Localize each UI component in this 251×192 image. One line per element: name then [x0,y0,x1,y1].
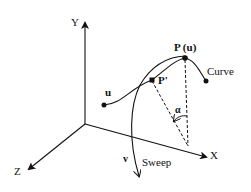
dashed-diagonal [152,81,188,146]
point-p-prime [150,78,155,83]
v-label: v [123,153,128,164]
x-axis-label: X [210,149,218,161]
y-axis-label: Y [71,16,79,28]
curve-label: Curve [207,65,234,77]
curve-end-point [204,79,209,84]
z-axis [29,124,85,169]
point-p-prime-label: P' [158,74,168,86]
point-p-u [182,55,188,61]
point-u [102,103,107,108]
curve [104,58,206,105]
z-axis-label: Z [14,165,21,177]
point-u-label: u [105,86,111,98]
angle-arc [174,116,187,121]
point-p-u-label: P (u) [174,41,197,54]
sweep-label: Sweep [142,156,172,168]
dashed-vertical [185,60,188,146]
angle-label: α [175,104,181,115]
sweep-diagram: Y Z X α P (u) P' u v Curve Sweep [0,0,251,192]
